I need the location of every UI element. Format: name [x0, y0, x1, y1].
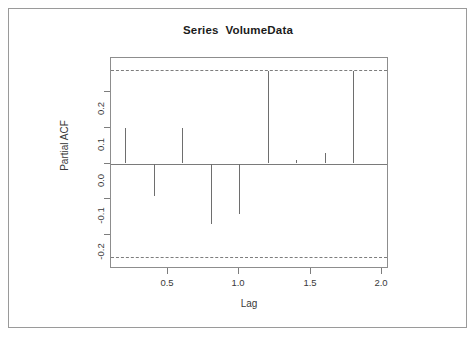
pacf-spike — [125, 128, 126, 164]
y-axis-tick-label: 0.2 — [95, 90, 106, 126]
pacf-spike — [154, 164, 155, 196]
screenshot-canvas: Series VolumeData Partial ACF Lag 0.20.1… — [0, 0, 476, 337]
y-axis-tick-label: 0.1 — [95, 126, 106, 162]
pacf-spike — [296, 160, 297, 164]
plot-area — [110, 57, 388, 268]
y-axis-tick-label: -0.2 — [95, 234, 106, 270]
x-axis-tick — [167, 268, 168, 274]
confidence-band-upper — [111, 70, 387, 71]
pacf-spike — [211, 164, 212, 225]
pacf-spike — [239, 164, 240, 214]
confidence-band-lower — [111, 257, 387, 258]
x-axis-label: Lag — [110, 298, 388, 309]
x-axis-tick — [238, 268, 239, 274]
pacf-spike — [353, 71, 354, 164]
zero-baseline — [111, 164, 387, 165]
x-axis-tick-label: 2.0 — [368, 277, 394, 288]
x-axis-tick-label: 1.0 — [225, 277, 251, 288]
pacf-spike — [325, 153, 326, 164]
y-axis-tick-label: 0.0 — [95, 162, 106, 198]
x-axis-tick — [381, 268, 382, 274]
y-axis-label: Partial ACF — [59, 76, 70, 216]
chart-title: Series VolumeData — [0, 24, 476, 36]
plot-inner — [111, 58, 387, 267]
y-axis-tick-label: -0.1 — [95, 198, 106, 234]
pacf-spike — [182, 128, 183, 164]
x-axis-tick-label: 0.5 — [154, 277, 180, 288]
x-axis-tick-label: 1.5 — [297, 277, 323, 288]
x-axis-tick — [310, 268, 311, 274]
pacf-spike — [268, 71, 269, 164]
